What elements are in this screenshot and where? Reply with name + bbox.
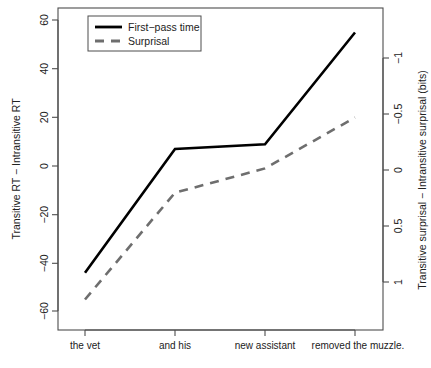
right-tick-label-neg1: −1: [392, 52, 404, 64]
legend: First−pass time Surprisal: [88, 16, 201, 51]
series-line-first-pass-time: [85, 33, 355, 273]
data-series-group: [85, 33, 355, 300]
chart-figure: 60 40 20 0 −20 −40 −60 Transitive RT − I…: [0, 0, 431, 368]
category-label-the-vet: the vet: [70, 340, 100, 351]
left-tick-label-0: 0: [38, 163, 50, 169]
left-axis: 60 40 20 0 −20 −40 −60 Transitive RT − I…: [10, 14, 58, 320]
left-tick-label-neg20: −20: [38, 206, 50, 224]
legend-label-surprisal: Surprisal: [128, 35, 169, 47]
right-tick-label-1: 1: [392, 279, 404, 285]
bottom-axis: the vet and his new assistant removed th…: [70, 330, 404, 351]
legend-label-first-pass-time: First−pass time: [128, 21, 200, 33]
right-tick-label-neg05: −0.5: [392, 103, 404, 124]
category-label-removed-the-muzzle: removed the muzzle.: [312, 340, 405, 351]
left-axis-title: Transitive RT − Intransitive RT: [10, 98, 22, 240]
chart-svg: 60 40 20 0 −20 −40 −60 Transitive RT − I…: [0, 0, 431, 368]
left-tick-label-60: 60: [38, 14, 50, 26]
category-label-and-his: and his: [159, 340, 191, 351]
left-tick-label-20: 20: [38, 111, 50, 123]
left-tick-label-neg40: −40: [38, 254, 50, 272]
right-tick-label-05: 0.5: [392, 219, 404, 234]
left-tick-label-40: 40: [38, 63, 50, 75]
left-tick-label-neg60: −60: [38, 302, 50, 320]
series-line-surprisal: [85, 118, 355, 300]
right-tick-label-0: 0: [392, 167, 404, 173]
right-axis: −1 −0.5 0 0.5 1 Transitive surprisal − I…: [383, 52, 428, 290]
right-axis-title: Transitive surprisal − Intransitive surp…: [416, 70, 428, 289]
category-label-new-assistant: new assistant: [235, 340, 296, 351]
